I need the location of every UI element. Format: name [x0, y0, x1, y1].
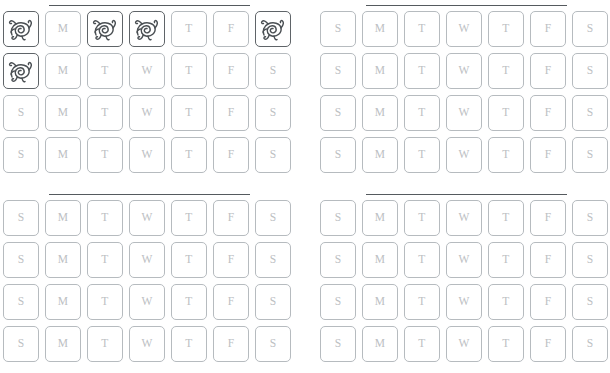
day-cell[interactable]: S — [320, 326, 356, 362]
day-cell[interactable]: S — [3, 137, 39, 173]
day-cell[interactable]: T — [488, 326, 524, 362]
day-cell[interactable]: S — [572, 11, 608, 47]
day-cell[interactable]: S — [255, 11, 291, 47]
day-cell[interactable]: T — [404, 11, 440, 47]
day-cell[interactable]: S — [3, 242, 39, 278]
day-cell[interactable]: T — [171, 11, 207, 47]
day-cell[interactable]: M — [45, 284, 81, 320]
day-cell[interactable]: T — [171, 284, 207, 320]
day-cell[interactable]: S — [320, 53, 356, 89]
day-cell[interactable]: W — [446, 326, 482, 362]
day-cell[interactable]: S — [255, 284, 291, 320]
day-cell[interactable]: F — [213, 284, 249, 320]
day-cell[interactable]: M — [362, 326, 398, 362]
day-cell[interactable]: T — [488, 200, 524, 236]
day-cell[interactable]: T — [171, 242, 207, 278]
day-cell[interactable]: S — [320, 284, 356, 320]
day-cell[interactable]: F — [213, 95, 249, 131]
day-cell[interactable]: W — [446, 53, 482, 89]
day-cell[interactable]: M — [362, 137, 398, 173]
day-cell[interactable]: T — [171, 326, 207, 362]
day-cell[interactable]: W — [129, 326, 165, 362]
day-cell[interactable]: T — [404, 200, 440, 236]
day-cell[interactable]: W — [129, 11, 165, 47]
day-cell[interactable]: S — [572, 95, 608, 131]
day-cell[interactable]: M — [362, 53, 398, 89]
day-cell[interactable]: F — [530, 200, 566, 236]
day-cell[interactable]: T — [404, 137, 440, 173]
day-cell[interactable]: S — [572, 284, 608, 320]
day-cell[interactable]: S — [255, 242, 291, 278]
day-cell[interactable]: M — [45, 11, 81, 47]
day-cell[interactable]: T — [488, 95, 524, 131]
day-cell[interactable]: S — [572, 242, 608, 278]
day-cell[interactable]: W — [129, 137, 165, 173]
day-cell[interactable]: T — [404, 242, 440, 278]
day-cell[interactable]: S — [255, 200, 291, 236]
day-cell[interactable]: T — [87, 200, 123, 236]
day-cell[interactable]: W — [129, 95, 165, 131]
day-cell[interactable]: T — [87, 284, 123, 320]
day-cell[interactable]: M — [45, 95, 81, 131]
day-cell[interactable]: F — [213, 242, 249, 278]
day-cell[interactable]: W — [446, 284, 482, 320]
day-cell[interactable]: T — [87, 95, 123, 131]
day-cell[interactable]: S — [320, 200, 356, 236]
day-cell[interactable]: M — [45, 137, 81, 173]
day-cell[interactable]: S — [3, 95, 39, 131]
day-cell[interactable]: M — [362, 11, 398, 47]
day-cell[interactable]: W — [129, 53, 165, 89]
day-cell[interactable]: T — [404, 95, 440, 131]
day-cell[interactable]: S — [572, 200, 608, 236]
day-cell[interactable]: F — [530, 53, 566, 89]
day-cell[interactable]: F — [213, 11, 249, 47]
day-cell[interactable]: T — [488, 11, 524, 47]
day-cell[interactable]: S — [255, 53, 291, 89]
day-cell[interactable]: M — [45, 326, 81, 362]
day-cell[interactable]: F — [530, 242, 566, 278]
day-cell[interactable]: F — [530, 137, 566, 173]
day-cell[interactable]: S — [255, 95, 291, 131]
day-cell[interactable]: M — [45, 53, 81, 89]
day-cell[interactable]: F — [530, 326, 566, 362]
day-cell[interactable]: T — [404, 326, 440, 362]
day-cell[interactable]: S — [320, 95, 356, 131]
day-cell[interactable]: S — [3, 284, 39, 320]
day-cell[interactable]: S — [320, 137, 356, 173]
day-cell[interactable]: S — [3, 326, 39, 362]
day-cell[interactable]: W — [446, 11, 482, 47]
day-cell[interactable]: S — [255, 326, 291, 362]
day-cell[interactable]: S — [255, 137, 291, 173]
day-cell[interactable]: S — [572, 326, 608, 362]
day-cell[interactable]: F — [213, 137, 249, 173]
day-cell[interactable]: T — [488, 242, 524, 278]
day-cell[interactable]: S — [320, 242, 356, 278]
day-cell[interactable]: M — [45, 200, 81, 236]
day-cell[interactable]: S — [320, 11, 356, 47]
day-cell[interactable]: T — [404, 284, 440, 320]
day-cell[interactable]: T — [171, 95, 207, 131]
day-cell[interactable]: T — [488, 53, 524, 89]
day-cell[interactable]: M — [362, 200, 398, 236]
day-cell[interactable]: S — [3, 11, 39, 47]
day-cell[interactable]: S — [572, 53, 608, 89]
day-cell[interactable]: S — [572, 137, 608, 173]
day-cell[interactable]: T — [171, 200, 207, 236]
day-cell[interactable]: W — [446, 242, 482, 278]
day-cell[interactable]: F — [530, 95, 566, 131]
day-cell[interactable]: W — [129, 284, 165, 320]
day-cell[interactable]: W — [129, 242, 165, 278]
day-cell[interactable]: W — [129, 200, 165, 236]
day-cell[interactable]: S — [3, 53, 39, 89]
day-cell[interactable]: T — [87, 137, 123, 173]
day-cell[interactable]: M — [362, 284, 398, 320]
day-cell[interactable]: W — [446, 137, 482, 173]
day-cell[interactable]: M — [45, 242, 81, 278]
day-cell[interactable]: F — [213, 53, 249, 89]
day-cell[interactable]: T — [171, 137, 207, 173]
day-cell[interactable]: T — [488, 137, 524, 173]
day-cell[interactable]: M — [362, 95, 398, 131]
day-cell[interactable]: T — [87, 242, 123, 278]
day-cell[interactable]: F — [213, 200, 249, 236]
day-cell[interactable]: T — [488, 284, 524, 320]
